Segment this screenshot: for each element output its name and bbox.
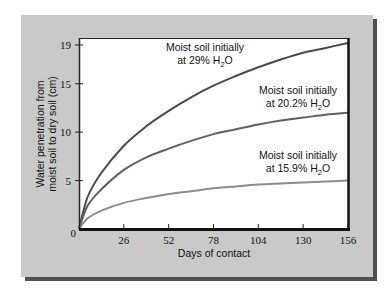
annotation-29-line-1: Moist soil initially <box>166 41 245 53</box>
x-tick-label: 104 <box>250 234 267 246</box>
y-tick-label: 10 <box>60 126 72 138</box>
y-axis-title-line-1: Water penetration from <box>34 80 46 187</box>
x-axis-title: Days of contact <box>178 247 250 259</box>
line-chart: 05101519 265278104130156 Days of contact… <box>0 0 390 294</box>
annotation-20-2: Moist soil initially at 20.2% H2O <box>259 84 338 112</box>
annotation-15-9: Moist soil initially at 15.9% H2O <box>259 149 338 177</box>
y-tick-label: 0 <box>71 227 77 239</box>
x-tick-label: 26 <box>118 234 130 246</box>
annotation-15-9-line-1: Moist soil initially <box>259 149 338 161</box>
y-tick-label: 5 <box>66 175 72 187</box>
y-tick-label: 19 <box>60 39 72 51</box>
annotation-20-2-line-1: Moist soil initially <box>259 84 338 96</box>
y-tick-label: 15 <box>60 78 72 90</box>
y-axis-title: Water penetration from moist soil to dry… <box>34 76 58 192</box>
x-tick-label: 52 <box>163 234 174 246</box>
x-tick-label: 130 <box>295 234 312 246</box>
y-axis-title-line-2: moist soil to dry soil (cm) <box>46 76 58 192</box>
x-tick-label: 78 <box>208 234 220 246</box>
x-tick-label: 156 <box>340 234 357 246</box>
